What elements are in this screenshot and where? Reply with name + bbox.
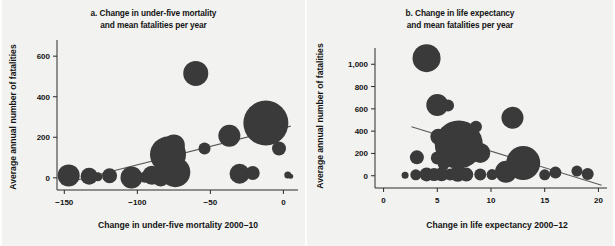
panel-b-plot: 02004006008001,00005101520Change in life… [307, 0, 613, 246]
chart-panel-b: b. Change in life expectancy and mean fa… [307, 0, 613, 246]
axis-spines [375, 48, 607, 188]
chart-panel-a: a. Change in under-five mortality and me… [2, 0, 305, 246]
data-bubble [183, 61, 208, 86]
data-bubble [160, 157, 190, 187]
y-tick-label: 0 [364, 172, 369, 181]
data-bubble [288, 174, 293, 179]
x-tick-label: 0 [381, 196, 386, 205]
data-bubble [218, 125, 240, 147]
x-tick-label: −50 [204, 198, 218, 207]
x-tick-label: −150 [55, 198, 74, 207]
y-tick-label: 200 [355, 149, 369, 158]
panel-a-plot: 0200400600−150−100−500Change in under-fi… [2, 0, 305, 246]
data-bubble [102, 168, 117, 183]
data-bubble [93, 172, 102, 181]
data-bubble [487, 169, 498, 180]
x-tick-label: 10 [487, 196, 496, 205]
data-bubble [571, 166, 582, 177]
y-tick-label: 0 [46, 174, 51, 183]
x-tick-label: 20 [594, 196, 603, 205]
data-bubble [495, 161, 517, 183]
data-bubble [246, 166, 260, 180]
figure-container: a. Change in under-five mortality and me… [0, 0, 615, 246]
x-axis-title: Change in life expectancy 2000–12 [426, 220, 568, 230]
y-axis-title: Average annual number of fatalities [8, 44, 18, 190]
y-tick-label: 800 [355, 83, 369, 92]
y-tick-label: 1,000 [348, 60, 369, 69]
data-bubble [470, 143, 490, 163]
data-bubble [58, 164, 80, 186]
data-bubble [413, 44, 441, 72]
x-axis-title: Change in under-five mortality 2000–10 [98, 220, 258, 230]
data-bubble [410, 150, 424, 164]
data-bubble [163, 134, 185, 156]
data-bubble [582, 168, 594, 180]
x-tick-label: 15 [540, 196, 549, 205]
data-bubble [501, 107, 523, 129]
data-bubble [442, 100, 454, 112]
data-bubble [459, 168, 473, 182]
y-tick-label: 400 [37, 93, 51, 102]
y-tick-label: 600 [355, 105, 369, 114]
x-tick-label: 0 [281, 198, 286, 207]
data-bubble [539, 169, 550, 180]
y-tick-label: 200 [37, 133, 51, 142]
data-bubble [549, 167, 561, 179]
x-tick-label: −100 [128, 198, 147, 207]
y-axis-title: Average annual number of fatalities [315, 43, 325, 189]
data-bubble [402, 172, 409, 179]
y-tick-label: 400 [355, 127, 369, 136]
x-tick-label: 5 [435, 196, 440, 205]
y-tick-label: 600 [37, 52, 51, 61]
data-bubble [199, 142, 211, 154]
data-bubble [243, 101, 288, 146]
data-bubble [474, 168, 486, 180]
data-bubble [272, 141, 286, 155]
